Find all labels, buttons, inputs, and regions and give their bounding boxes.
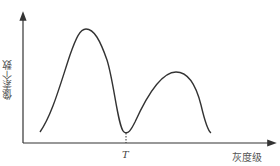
histogram-diagram bbox=[0, 0, 280, 166]
y-axis-label: 像素个数 bbox=[2, 60, 16, 100]
histogram-curve bbox=[40, 29, 211, 133]
x-axis-label: 灰度级 bbox=[232, 149, 262, 164]
threshold-label: T bbox=[122, 149, 129, 160]
